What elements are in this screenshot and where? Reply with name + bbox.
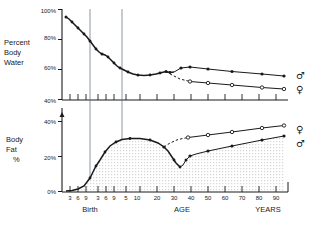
chart-canvas: Percent Body Water 100% 80% 60% 40%: [0, 0, 318, 226]
xtick-label-12: 60: [222, 195, 229, 201]
water-ytick-60: 60%: [44, 65, 57, 71]
xtick-label-15: 90: [273, 195, 280, 201]
xtick-label-10: 40: [188, 195, 195, 201]
water-ytick-40: 40%: [44, 98, 57, 104]
xtick-label-4: 6: [104, 195, 108, 201]
xtick-label-14: 80: [256, 195, 263, 201]
xtick-label-5: 9: [112, 195, 116, 201]
fat-axis-arrow: [60, 112, 65, 117]
fat-axis-title-line2: Fat: [6, 145, 18, 154]
xtick-label-11: 50: [205, 195, 212, 201]
water-ytick-100: 100%: [41, 8, 57, 14]
fat-stipple-area: [66, 136, 284, 192]
figure-body-composition-lifespan: Percent Body Water 100% 80% 60% 40%: [0, 0, 318, 226]
xtick-label-7: 10: [134, 195, 141, 201]
fat-ytick-20: 20%: [44, 155, 57, 161]
fat-legend-male-symbol: ♂: [296, 138, 305, 149]
xtick-label-8: 20: [154, 195, 161, 201]
fat-axis-title-line1: Body: [6, 135, 23, 144]
fat-curve-female-dashed: [164, 138, 188, 148]
fat-curve-female: [188, 126, 284, 138]
water-ytick-80: 80%: [44, 35, 57, 41]
xtick-label-9: 30: [171, 195, 178, 201]
xtick-label-1: 6: [76, 195, 80, 201]
fat-axis-title-line3: %: [13, 155, 20, 164]
xtick-label-2: 9: [84, 195, 88, 201]
water-curves-group: [65, 16, 286, 91]
fat-legend-female-symbol: ♀: [296, 124, 303, 135]
water-x-tick-marks: [70, 94, 276, 100]
age-axis-label: AGE: [174, 205, 190, 214]
xtick-label-13: 70: [239, 195, 246, 201]
fat-ytick-0: 0%: [47, 189, 56, 195]
xtick-label-6: 5: [124, 195, 128, 201]
years-axis-label: YEARS: [255, 205, 280, 214]
water-legend-male-symbol: ♂: [296, 70, 305, 81]
water-axis-title-line2: Body: [4, 48, 21, 57]
water-curve-female: [190, 82, 284, 90]
xtick-label-0: 3: [68, 195, 72, 201]
water-axis-title-line1: Percent: [4, 38, 31, 47]
water-axis-title-line3: Water: [4, 58, 24, 67]
birth-label: Birth: [82, 205, 97, 214]
fat-area-group: [66, 136, 284, 192]
water-legend-female-symbol: ♀: [296, 84, 303, 95]
xtick-label-3: 3: [96, 195, 100, 201]
fat-ytick-40: 40%: [44, 119, 57, 125]
